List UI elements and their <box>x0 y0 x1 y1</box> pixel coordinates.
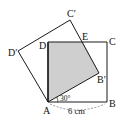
label-a: A <box>43 105 51 116</box>
geometry-diagram: A B C D E B′ C′ D′ 30° 6 cm <box>0 0 127 121</box>
angle-label: 30° <box>60 94 71 103</box>
label-c-prime: C′ <box>67 8 76 19</box>
label-b-prime: B′ <box>97 74 106 85</box>
angle-arc <box>57 97 58 102</box>
label-e: E <box>82 31 88 42</box>
label-c: C <box>109 36 116 47</box>
label-b: B <box>109 98 116 109</box>
label-d-prime: D′ <box>8 47 17 58</box>
side-length-label: 6 cm <box>68 106 85 116</box>
label-d: D <box>39 40 46 51</box>
shaded-region <box>48 42 99 102</box>
